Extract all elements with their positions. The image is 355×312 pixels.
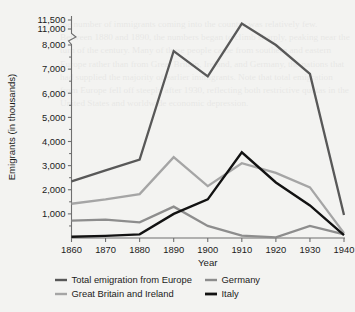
x-tick-label: 1930 [300,244,321,255]
series-line-italy [72,152,345,236]
legend-label-italy: Italy [222,288,240,299]
axes [68,16,345,242]
series-line-germany [72,207,345,238]
x-tick-label: 1910 [231,244,252,255]
y-tick-label: 8,000 [42,39,65,50]
x-tick-label: 1920 [265,244,286,255]
x-axis-title: Year [198,257,218,268]
y-tick-label: 11,000 [38,23,66,34]
chart-legend: Total emigration from EuropeGermanyGreat… [55,274,260,299]
y-tick-label: 1,000 [42,208,65,219]
y-tick-label: 6,000 [42,88,65,99]
x-tick-label: 1860 [61,244,82,255]
x-tick-label: 1870 [95,244,116,255]
x-tick-label: 1900 [197,244,218,255]
y-tick-label: 7,000 [42,63,65,74]
line-chart-svg: 11,50011,0008,0007,0006,0005,0004,0003,0… [0,0,355,312]
x-tick-label: 1880 [129,244,150,255]
legend-label-germany: Germany [222,274,261,285]
x-tick-label: 1890 [163,244,184,255]
legend-label-total-emigration-from-europe: Total emigration from Europe [72,274,192,285]
y-tick-label: 5,000 [42,112,65,123]
y-tick-label: 3,000 [42,160,65,171]
x-tick-label: 1940 [334,244,355,255]
y-tick-label: 2,000 [42,184,65,195]
legend-label-great-britain-and-ireland: Great Britain and Ireland [72,288,174,299]
y-axis-title: Emigrants (in thousands) [6,74,17,181]
data-series-group [72,24,345,238]
y-tick-label: 4,000 [42,136,65,147]
chart-figure: the number of immigrants coming into the… [0,0,355,312]
